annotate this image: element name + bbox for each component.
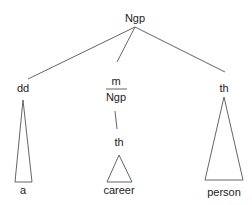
th-mid-label: th (114, 136, 123, 148)
leaf-career: career (103, 184, 135, 196)
th-right-label: th (219, 82, 228, 94)
dd-node-label: dd (17, 82, 29, 94)
roof-triangle-left (15, 100, 32, 182)
ngp-mid-label: Ngp (106, 91, 126, 103)
m-node-label: m (111, 75, 120, 87)
roof-triangle-right (205, 97, 243, 180)
edge-root-th (135, 27, 225, 72)
edge-ngp-th (115, 111, 117, 129)
tree-diagram: Ngp dd a m Ngp th career th person (0, 0, 252, 205)
roof-triangle-middle (107, 155, 132, 182)
leaf-a: a (20, 184, 27, 196)
edge-root-m (117, 27, 135, 62)
root-node-label: Ngp (125, 12, 145, 24)
leaf-person: person (207, 186, 241, 198)
edge-root-dd (28, 27, 135, 79)
